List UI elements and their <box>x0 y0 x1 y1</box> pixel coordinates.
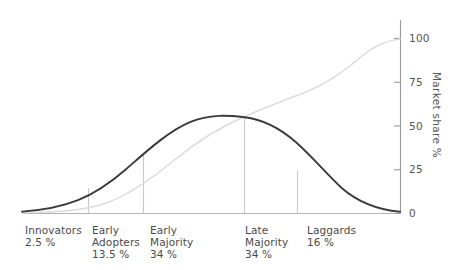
segment-percent-innovators: 2.5 % <box>25 236 82 248</box>
y-tick-label-0: 0 <box>409 207 416 219</box>
segment-name-laggards: Laggards <box>307 224 356 236</box>
segment-label-laggards: Laggards 16 % <box>307 224 356 248</box>
segment-percent-laggards: 16 % <box>307 236 356 248</box>
diffusion-of-innovations-chart: 100 75 50 25 0 Market share % Innovators… <box>0 0 464 270</box>
segment-label-early-adopters: Early Adopters 13.5 % <box>92 224 140 261</box>
y-tick-label-25: 25 <box>409 163 423 175</box>
segment-name-early-adopters-line1: Early <box>92 224 140 236</box>
segment-label-early-majority: Early Majority 34 % <box>150 224 193 261</box>
segment-name-early-majority-line2: Majority <box>150 236 193 248</box>
y-axis-ticks <box>394 39 401 214</box>
adoption-rate-bell-curve <box>22 116 400 212</box>
segment-name-early-adopters-line2: Adopters <box>92 236 140 248</box>
segment-percent-late-majority: 34 % <box>245 248 288 260</box>
y-axis-title: Market share % <box>431 72 443 158</box>
segment-name-innovators: Innovators <box>25 224 82 236</box>
segment-label-innovators: Innovators 2.5 % <box>25 224 82 248</box>
segment-percent-early-majority: 34 % <box>150 248 193 260</box>
segment-name-late-majority-line1: Late <box>245 224 288 236</box>
segment-label-late-majority: Late Majority 34 % <box>245 224 288 261</box>
segment-name-late-majority-line2: Majority <box>245 236 288 248</box>
segment-name-early-majority-line1: Early <box>150 224 193 236</box>
segment-dividers <box>89 117 298 214</box>
y-tick-label-75: 75 <box>409 76 423 88</box>
y-tick-label-50: 50 <box>409 120 423 132</box>
cumulative-s-curve <box>22 39 400 213</box>
segment-percent-early-adopters: 13.5 % <box>92 248 140 260</box>
y-tick-label-100: 100 <box>409 32 430 44</box>
